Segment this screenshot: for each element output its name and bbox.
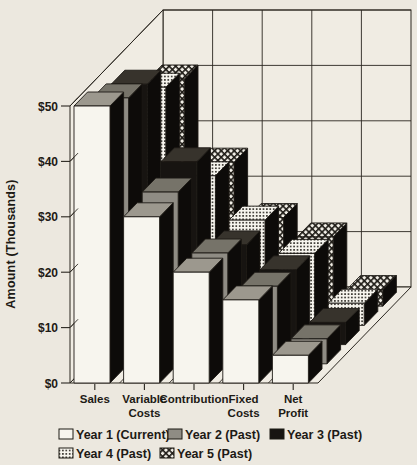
legend-swatch-gray <box>168 429 182 439</box>
category-label-sales: Sales <box>80 393 110 405</box>
bar-front-face <box>223 300 259 383</box>
3d-bar-chart: $0$10$20$30$40$50Amount (Thousands)Sales… <box>0 0 417 465</box>
y-axis-title: Amount (Thousands) <box>4 179 18 308</box>
legend-swatch-black <box>270 429 284 439</box>
category-label-fixed-costs: FixedCosts <box>228 393 260 419</box>
legend-label: Year 1 (Current) <box>76 428 170 442</box>
legend-item-year-5-past: Year 5 (Past) <box>160 447 252 461</box>
category-label-line: Sales <box>80 393 110 405</box>
legend-swatch-hatch <box>160 448 174 458</box>
bar-side-face <box>259 286 273 383</box>
category-label-line: Costs <box>128 407 160 419</box>
bar-front-face <box>173 272 209 383</box>
y-tick-label: $50 <box>38 100 58 114</box>
y-tick-label: $10 <box>38 321 58 335</box>
legend-item-year-4-past: Year 4 (Past) <box>59 447 151 461</box>
category-label-contribution: Contribution <box>160 393 229 405</box>
bar-variable-costs-year-1-current <box>124 203 174 383</box>
legend-item-year-3-past: Year 3 (Past) <box>270 428 362 442</box>
category-label-line: Fixed <box>229 393 259 405</box>
legend-item-year-2-past: Year 2 (Past) <box>168 428 260 442</box>
y-tick-label: $20 <box>38 266 58 280</box>
bar-net-profit-year-1-current <box>272 341 322 383</box>
legend-label: Year 4 (Past) <box>76 447 151 461</box>
category-label-line: Net <box>284 393 303 405</box>
bar-contribution-year-1-current <box>173 258 223 383</box>
legend-label: Year 5 (Past) <box>177 447 252 461</box>
bar-side-face <box>110 92 124 383</box>
y-axis: $0$10$20$30$40$50Amount (Thousands) <box>4 98 78 391</box>
bar-sales-year-1-current <box>74 92 124 383</box>
category-label-line: Costs <box>228 407 260 419</box>
bar-side-face <box>160 203 174 383</box>
legend-label: Year 3 (Past) <box>287 428 362 442</box>
legend-swatch-white <box>59 429 73 439</box>
bar-front-face <box>74 106 110 383</box>
category-label-net-profit: NetProfit <box>278 393 308 419</box>
y-tick-label: $0 <box>45 377 59 391</box>
legend-swatch-dots <box>59 448 73 458</box>
legend-label: Year 2 (Past) <box>185 428 260 442</box>
bar-front-face <box>272 355 308 383</box>
legend-item-year-1-current: Year 1 (Current) <box>59 428 170 442</box>
legend: Year 1 (Current)Year 2 (Past)Year 3 (Pas… <box>59 428 362 461</box>
category-label-line: Profit <box>278 407 308 419</box>
x-axis: SalesVariableCostsContributionFixedCosts… <box>80 384 309 419</box>
category-label-line: Contribution <box>160 393 229 405</box>
bar-front-face <box>124 217 160 383</box>
bar-fixed-costs-year-1-current <box>223 286 273 383</box>
scanned-chart-figure: $0$10$20$30$40$50Amount (Thousands)Sales… <box>0 0 417 465</box>
y-tick-label: $40 <box>38 155 58 169</box>
y-tick-label: $30 <box>38 210 58 224</box>
bar-side-face <box>209 258 223 383</box>
